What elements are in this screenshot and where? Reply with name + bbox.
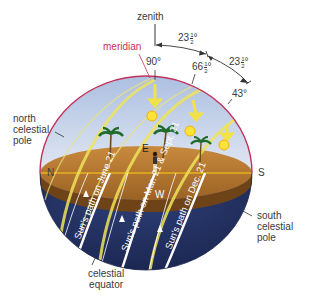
- angle-90-label: 90°: [146, 56, 161, 67]
- angle-66-label: 6612°: [192, 61, 211, 74]
- tilt-upper-label: 2312°: [178, 32, 197, 45]
- north-point-label: N: [47, 167, 54, 178]
- south-pole-leader: [243, 211, 252, 216]
- sun-icon-june: [147, 111, 157, 121]
- tilt-lower-label: 2312°: [229, 56, 248, 69]
- celestial-sphere-diagram: Sun's path on June 21 Sun's path on Mar.…: [0, 0, 309, 303]
- diagram-canvas: Sun's path on June 21 Sun's path on Mar.…: [0, 0, 309, 303]
- zenith-label: zenith: [137, 11, 164, 22]
- celestial-equator-label: celestial equator: [88, 268, 124, 290]
- south-point-label: S: [258, 167, 265, 178]
- north-celestial-pole-label: north celestial pole: [13, 113, 49, 146]
- west-label: W: [155, 189, 165, 200]
- angle-43-label: 43°: [232, 88, 247, 99]
- sun-icon-december: [219, 140, 229, 150]
- east-label: E: [142, 143, 149, 154]
- south-celestial-pole-label: south celestial pole: [257, 210, 293, 243]
- meridian-label: meridian: [103, 41, 141, 52]
- sun-icon-equinox: [185, 126, 195, 136]
